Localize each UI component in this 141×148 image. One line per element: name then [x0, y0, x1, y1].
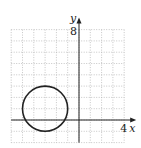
y-tick-label-8: 8: [70, 25, 77, 38]
coordinate-plane: y 8 4 x: [0, 0, 141, 148]
x-axis-label: x: [129, 122, 136, 135]
y-axis-label: y: [69, 12, 77, 25]
x-tick-label-4: 4: [120, 122, 127, 135]
y-axis-arrow-icon: [77, 18, 82, 24]
x-axis: [11, 118, 136, 123]
grid-lines: [11, 30, 124, 143]
y-axis: [77, 18, 82, 143]
